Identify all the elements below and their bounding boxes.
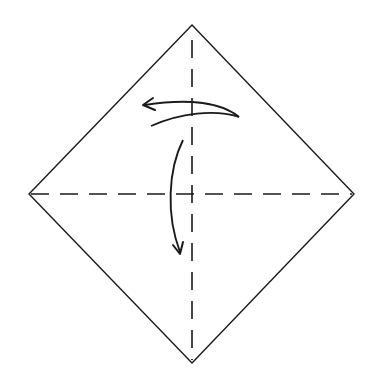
- diagram-svg: [0, 0, 378, 388]
- origami-diagram: [0, 0, 378, 388]
